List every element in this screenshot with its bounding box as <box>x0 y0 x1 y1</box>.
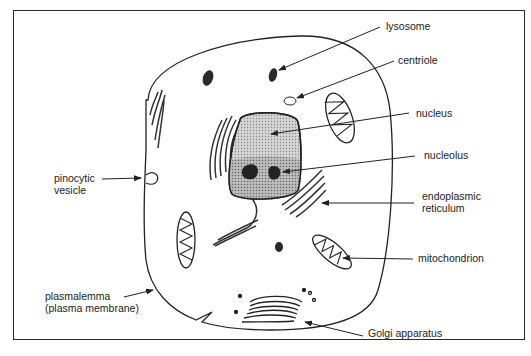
label-pinocytic-line2: vesicle <box>54 184 86 196</box>
leader-mitochondrion <box>343 258 413 259</box>
lysosome-3 <box>275 242 283 252</box>
endoplasmic-reticulum-lower <box>213 196 258 246</box>
lysosome-2 <box>267 67 278 83</box>
label-pinocytic-line1: pinocytic <box>54 172 95 184</box>
label-er-line1: endoplasmic <box>422 190 481 202</box>
label-golgi: Golgi apparatus <box>368 327 442 339</box>
endoplasmic-reticulum-left <box>150 90 165 148</box>
label-nucleolus: nucleolus <box>424 149 468 161</box>
label-plasmalemma-line1: plasmalemma <box>45 290 110 302</box>
mitochondrion-right <box>308 230 356 275</box>
label-centriole: centriole <box>398 54 438 66</box>
leader-nucleolus <box>283 156 415 172</box>
leader-lysosome <box>279 27 380 70</box>
label-mitochondrion: mitochondrion <box>418 252 484 264</box>
leader-pinocytic <box>102 178 141 179</box>
label-nucleus: nucleus <box>416 107 452 119</box>
nucleus <box>229 113 303 199</box>
centriole <box>284 97 296 105</box>
mitochondrion-upper <box>320 89 360 146</box>
leader-centriole <box>297 61 394 98</box>
golgi-apparatus <box>235 289 316 323</box>
leader-plasmalemma <box>124 290 153 297</box>
label-lysosome: lysosome <box>386 20 430 32</box>
lysosome-1 <box>201 69 216 87</box>
mitochondrion-left <box>177 212 195 268</box>
label-plasmalemma-line2: (plasma membrane) <box>45 302 139 314</box>
label-er-line2: reticulum <box>422 202 465 214</box>
pinocytic-vesicle <box>146 173 158 184</box>
